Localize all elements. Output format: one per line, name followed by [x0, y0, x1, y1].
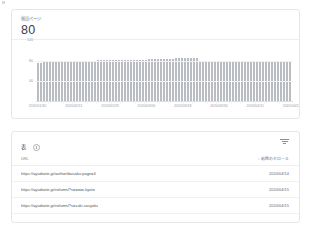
y-axis-tick: 80 — [29, 59, 33, 63]
x-axis-tick: 2020/02/23 — [101, 104, 119, 108]
row-last-crawl-date: 2020/04/15 — [269, 203, 289, 208]
metric-value: 80 — [21, 23, 299, 38]
table-body: https://ayudante.jp/author/daisaku.page=… — [12, 166, 299, 214]
table-column-headers: URL ↓ 前回のクロール — [12, 152, 299, 166]
filter-icon[interactable] — [280, 138, 289, 146]
x-axis-tick: 2020/04/11 — [247, 104, 264, 108]
x-axis-line — [36, 101, 293, 102]
table-header: 表 — [12, 132, 299, 152]
x-axis-tick: 2020/03/18 — [174, 104, 192, 108]
x-axis-tick: 2020/03/06 — [138, 104, 156, 108]
x-axis-tick: 2020/04/23 — [283, 104, 300, 108]
screenshot-root: 検出ページ 80 1208040 2020/01/302020/02/11202… — [0, 0, 311, 226]
table-title: 表 — [21, 144, 26, 151]
row-last-crawl-date: 2020/04/14 — [269, 171, 289, 176]
chart-grid — [36, 40, 293, 102]
y-axis: 1208040 — [12, 40, 36, 102]
x-axis: 2020/01/302020/02/112020/02/232020/03/06… — [36, 104, 293, 112]
table-row[interactable]: https://ayudante.jp/author/daisaku.page=… — [12, 166, 299, 182]
table-row[interactable]: https://ayudante.jp/column/?s=suki-sosyo… — [12, 198, 299, 214]
sort-descending-icon: ↓ — [258, 157, 260, 161]
x-axis-tick: 2020/03/30 — [210, 104, 228, 108]
bar-series — [37, 40, 292, 101]
chart-plot-area: 1208040 2020/01/302020/02/112020/02/2320… — [12, 40, 299, 119]
metric-label: 検出ページ — [21, 16, 299, 22]
grid-line — [36, 61, 293, 62]
corner-artifact — [2, 1, 5, 4]
grid-line — [36, 81, 293, 82]
info-icon[interactable] — [33, 144, 40, 151]
url-table-card: 表 URL ↓ 前回のクロール https://ayudante.jp/auth… — [11, 131, 300, 223]
x-axis-tick: 2020/01/30 — [29, 104, 47, 108]
x-axis-tick: 2020/02/11 — [65, 104, 82, 108]
row-url[interactable]: https://ayudante.jp/column/?s=www-kyoto — [21, 187, 95, 192]
detected-pages-chart-card: 検出ページ 80 1208040 2020/01/302020/02/11202… — [11, 9, 300, 119]
metric-header: 検出ページ 80 — [12, 10, 299, 40]
row-last-crawl-date: 2020/04/15 — [269, 187, 289, 192]
column-header-last-crawl[interactable]: ↓ 前回のクロール — [258, 156, 290, 161]
column-header-url[interactable]: URL — [21, 157, 29, 161]
y-axis-tick: 40 — [29, 79, 33, 83]
column-header-last-crawl-label: 前回のクロール — [261, 156, 289, 161]
row-url[interactable]: https://ayudante.jp/column/?s=suki-sosyo… — [21, 203, 98, 208]
row-url[interactable]: https://ayudante.jp/author/daisaku.page=… — [21, 171, 96, 176]
table-row[interactable]: https://ayudante.jp/column/?s=www-kyoto2… — [12, 182, 299, 198]
y-axis-tick: 120 — [27, 38, 33, 42]
